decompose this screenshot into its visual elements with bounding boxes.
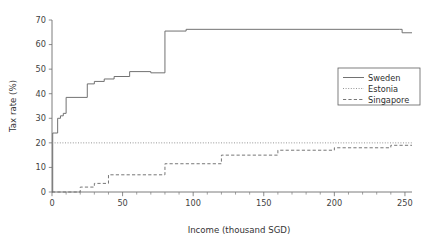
x-tick-label: 0 <box>49 198 54 208</box>
chart-canvas: 010203040506070 050100150200250 Tax rate… <box>0 0 426 241</box>
tax-rate-chart: 010203040506070 050100150200250 Tax rate… <box>0 0 426 241</box>
x-tick-label: 200 <box>327 198 343 208</box>
y-tick-label: 20 <box>36 138 46 148</box>
series-lines <box>52 29 412 192</box>
legend-label-estonia: Estonia <box>368 84 398 94</box>
y-axis-title: Tax rate (%) <box>8 80 18 133</box>
x-axis-title: Income (thousand SGD) <box>188 225 291 235</box>
y-tick-label: 30 <box>36 113 46 123</box>
y-tick-label: 50 <box>36 64 46 74</box>
series-line-sweden <box>52 29 412 192</box>
series-line-singapore <box>52 145 412 192</box>
x-tick-label: 250 <box>397 198 413 208</box>
x-tick-label: 50 <box>117 198 127 208</box>
legend-label-sweden: Sweden <box>368 73 400 83</box>
chart-legend: SwedenEstoniaSingapore <box>338 68 420 105</box>
y-tick-label: 70 <box>36 15 46 25</box>
y-tick-label: 10 <box>36 162 46 172</box>
x-tick-label: 100 <box>185 198 201 208</box>
y-tick-label: 40 <box>36 89 46 99</box>
y-tick-label: 0 <box>41 187 46 197</box>
y-axis: 010203040506070 <box>36 15 52 197</box>
x-tick-label: 150 <box>256 198 272 208</box>
legend-label-singapore: Singapore <box>368 95 409 105</box>
y-tick-label: 60 <box>36 39 46 49</box>
x-axis: 050100150200250 <box>49 192 412 208</box>
